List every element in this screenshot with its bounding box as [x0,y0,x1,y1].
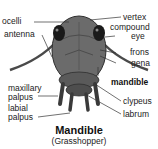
label-frons: frons [130,48,149,56]
maxillary-palp-left [60,84,63,104]
labial-palp-left [70,94,72,110]
label-labial-palpus-line2: palpus [8,113,33,121]
label-gena: gena [131,59,150,67]
diagram-caption: Mandible (Grasshopper) [0,124,158,146]
labial-palp-right [86,94,88,110]
label-compound-eye-line2: eye [131,32,145,40]
label-antenna: antenna [4,30,35,38]
diagram-subtitle: (Grasshopper) [0,136,158,146]
compound-eye-left [53,25,65,41]
label-vertex: vertex [123,13,146,21]
label-compound-eye-line1: compound [110,23,150,31]
label-labial-palpus-line1: labial [8,104,28,112]
label-ocelli: ocelli [2,17,21,25]
label-clypeus: clypeus [123,97,152,105]
label-labrum: labrum [123,110,149,118]
label-maxillary-palpus-line1: maxillary [8,84,42,92]
label-mandible: mandible [111,78,148,86]
diagram-title: Mandible [0,124,158,136]
compound-eye-right [93,25,105,41]
labrum-shape [66,84,92,96]
label-maxillary-palpus-line2: palpus [8,93,33,101]
